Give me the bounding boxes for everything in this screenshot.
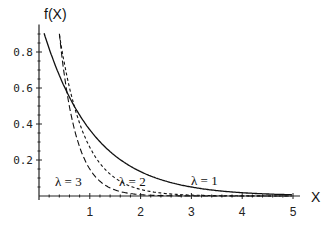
curves	[44, 33, 292, 196]
x-tick-label: 5	[290, 205, 297, 219]
annotation-lambda-1: λ = 1	[191, 173, 218, 188]
annotation-lambda-3: λ = 3	[55, 174, 82, 189]
x-tick-label: 1	[86, 205, 93, 219]
annotation-lambda-2: λ = 2	[119, 174, 146, 189]
x-axis-title: X	[311, 189, 321, 205]
y-axis-title: f(X)	[44, 6, 67, 22]
curve-lambda-2	[59, 35, 292, 196]
curve-lambda-1	[44, 33, 292, 195]
x-tick-label: 3	[188, 205, 195, 219]
y-tick-label: 0.6	[13, 82, 33, 95]
y-tick-label: 0.4	[13, 118, 33, 131]
y-tick-label: 0.2	[13, 154, 33, 167]
exponential-density-chart: 123450.20.40.60.8 f(X) X λ = 3 λ = 2 λ =…	[0, 0, 333, 225]
x-tick-label: 4	[239, 205, 246, 219]
y-tick-label: 0.8	[13, 46, 33, 59]
x-tick-label: 2	[137, 205, 144, 219]
curve-lambda-3	[59, 34, 292, 196]
